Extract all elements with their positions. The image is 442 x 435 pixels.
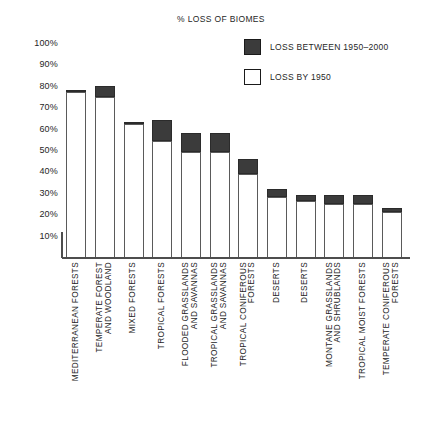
bar <box>152 120 172 257</box>
y-tick-label: 70% <box>24 102 58 112</box>
bar-segment-loss-by-1950 <box>95 97 115 258</box>
bar-segment-loss-1950-2000 <box>124 122 144 125</box>
x-tick-label-line: AND SAVANNAS <box>191 262 200 329</box>
x-tick-label: TROPICAL CONIFEROUSFORESTS <box>234 262 263 366</box>
bar-segment-loss-by-1950 <box>382 212 402 257</box>
x-tick-label: TEMPERATE CONIFEROUSFORESTS <box>377 262 406 375</box>
x-tick-label: MONTANE GRASSLANDSAND SHRUBLANDS <box>320 262 349 367</box>
bar <box>181 133 201 257</box>
bar-segment-loss-1950-2000 <box>353 195 373 204</box>
bar-segment-loss-1950-2000 <box>66 90 86 93</box>
bar-segment-loss-by-1950 <box>353 204 373 258</box>
y-tick-label: 100% <box>24 38 58 48</box>
bar-segment-loss-1950-2000 <box>238 159 258 174</box>
x-tick-label: TROPICAL GRASSLANDSAND SAVANNAS <box>205 262 234 368</box>
x-tick-label-line: AND WOODLAND <box>105 262 114 334</box>
x-tick-label-line: MIXED FORESTS <box>129 262 138 333</box>
bar-segment-loss-by-1950 <box>152 141 172 257</box>
bar <box>66 90 86 257</box>
bar-segment-loss-by-1950 <box>238 174 258 257</box>
bar-segment-loss-by-1950 <box>66 92 86 257</box>
x-tick-label: MIXED FORESTS <box>119 262 148 333</box>
y-tick-label: 50% <box>24 145 58 155</box>
x-tick-label-line: AND SAVANNAS <box>220 262 229 329</box>
y-tick-label: 80% <box>24 81 58 91</box>
bar-segment-loss-1950-2000 <box>95 86 115 97</box>
x-tick-label-line: DESERTS <box>273 262 282 303</box>
bar-segment-loss-by-1950 <box>296 201 316 257</box>
x-tick-label: DESERTS <box>263 262 292 303</box>
bar-segment-loss-by-1950 <box>324 204 344 258</box>
y-tick-label: 60% <box>24 124 58 134</box>
bar <box>324 195 344 257</box>
x-tick-label-line: TROPICAL MOIST FORESTS <box>359 262 368 379</box>
x-tick-label-line: AND SHRUBLANDS <box>334 262 343 342</box>
x-axis-labels: MEDITERRANEAN FORESTSTEMPERATE FORESTAND… <box>62 262 410 435</box>
bar <box>296 195 316 257</box>
bar-segment-loss-by-1950 <box>210 152 230 257</box>
bar <box>210 133 230 257</box>
bar-segment-loss-1950-2000 <box>324 195 344 204</box>
x-tick-label-line: DESERTS <box>301 262 310 303</box>
y-tick-label: 20% <box>24 209 58 219</box>
y-tick-label: 10% <box>24 231 58 241</box>
x-tick-label-line: FORESTS <box>248 262 257 303</box>
x-tick-label-line: TROPICAL FORESTS <box>158 262 167 349</box>
x-tick-label: TROPICAL FORESTS <box>148 262 177 349</box>
bar <box>124 122 144 257</box>
x-tick-label: DESERTS <box>291 262 320 303</box>
bar <box>238 159 258 257</box>
y-tick-label: 30% <box>24 188 58 198</box>
y-tick-label: 90% <box>24 59 58 69</box>
chart-figure: % LOSS OF BIOMES LOSS BETWEEN 1950–2000 … <box>0 0 442 435</box>
bar-segment-loss-1950-2000 <box>181 133 201 152</box>
bar-segment-loss-1950-2000 <box>152 120 172 141</box>
bar <box>267 189 287 257</box>
y-axis-line <box>61 232 63 258</box>
bar <box>95 86 115 257</box>
x-tick-label-line: FORESTS <box>392 262 401 303</box>
bar <box>382 208 402 257</box>
page-title: % LOSS OF BIOMES <box>0 14 442 24</box>
plot-area <box>62 43 406 257</box>
x-tick-label: TEMPERATE FORESTAND WOODLAND <box>91 262 120 353</box>
bar-segment-loss-by-1950 <box>181 152 201 257</box>
x-axis-line <box>62 257 410 259</box>
bar-segment-loss-by-1950 <box>124 124 144 257</box>
y-axis: 100%90%80%70%60%50%40%30%20%10% <box>20 0 58 435</box>
bar <box>353 195 373 257</box>
x-tick-label: TROPICAL MOIST FORESTS <box>349 262 378 379</box>
x-tick-label-line: MEDITERRANEAN FORESTS <box>72 262 81 381</box>
bar-segment-loss-by-1950 <box>267 197 287 257</box>
y-tick-label: 40% <box>24 166 58 176</box>
bar-segment-loss-1950-2000 <box>267 189 287 198</box>
bar-segment-loss-1950-2000 <box>210 133 230 152</box>
x-tick-label: MEDITERRANEAN FORESTS <box>62 262 91 381</box>
bar-segment-loss-1950-2000 <box>296 195 316 201</box>
x-tick-label: FLOODED GRASSLANDSAND SAVANNAS <box>177 262 206 366</box>
bar-segment-loss-1950-2000 <box>382 208 402 212</box>
